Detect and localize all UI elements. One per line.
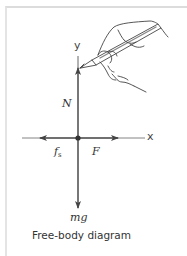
y-axis-label: y <box>74 40 81 51</box>
normal-force-label: N <box>62 98 72 109</box>
weight-force-label: mg <box>70 212 87 223</box>
diagram-caption: Free-body diagram <box>32 230 131 241</box>
friction-force-label: fs <box>54 146 62 159</box>
origin-point <box>75 135 80 140</box>
hand-pencil-icon <box>80 21 168 92</box>
x-axis-label: x <box>147 131 154 142</box>
applied-force-label: F <box>92 146 100 157</box>
friction-force-subscript: s <box>58 151 62 159</box>
